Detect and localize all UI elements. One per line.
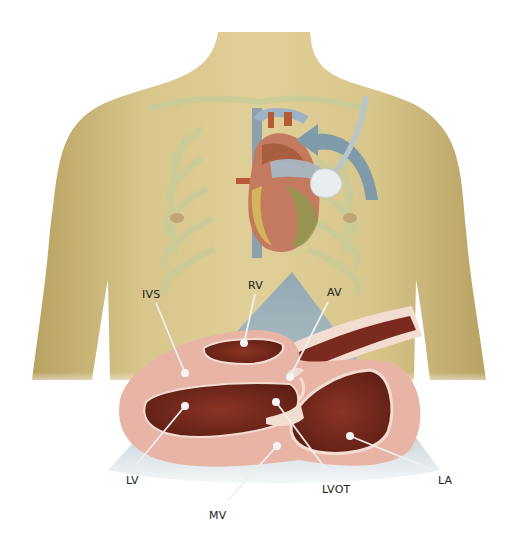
label-rv: RV (248, 279, 263, 292)
label-ivs: IVS (142, 288, 160, 301)
nipple-left (170, 213, 184, 223)
label-lvot: LVOT (322, 483, 350, 496)
label-mv: MV (209, 509, 226, 522)
anatomy-illustration (0, 0, 512, 556)
label-lv: LV (126, 474, 139, 487)
label-la: LA (438, 474, 452, 487)
echo-diagram: IVS RV AV LV MV LVOT LA (0, 0, 512, 556)
label-av: AV (327, 286, 342, 299)
nipple-right (343, 213, 357, 223)
